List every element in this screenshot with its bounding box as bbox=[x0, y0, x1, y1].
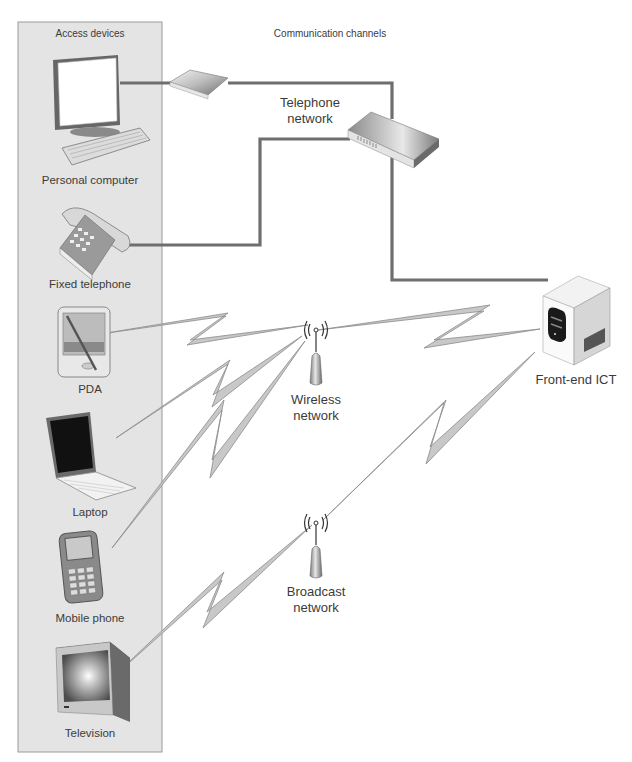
device-label-pc: Personal computer bbox=[18, 174, 162, 188]
device-label-tv: Television bbox=[18, 727, 162, 741]
device-label-laptop: Laptop bbox=[18, 506, 162, 520]
device-label-mobile: Mobile phone bbox=[18, 612, 162, 626]
device-label-pda: PDA bbox=[18, 383, 162, 397]
server-label: Front-end ICT bbox=[520, 372, 632, 388]
broadcast-antenna-icon bbox=[305, 514, 328, 578]
wireless-antenna-icon bbox=[305, 321, 328, 385]
modem-icon bbox=[170, 70, 228, 99]
pda-icon bbox=[58, 307, 110, 377]
network-label-wireless: Wireless network bbox=[271, 392, 361, 423]
channels-title: Communication channels bbox=[240, 28, 420, 40]
network-label-broadcast: Broadcast network bbox=[271, 584, 361, 615]
panel-title: Access devices bbox=[18, 28, 162, 40]
network-label-telephone: Telephone network bbox=[265, 95, 355, 126]
device-label-phone: Fixed telephone bbox=[18, 278, 162, 292]
television-icon bbox=[56, 642, 130, 722]
mobile-phone-icon bbox=[58, 530, 103, 604]
server-tower-icon bbox=[543, 276, 610, 365]
